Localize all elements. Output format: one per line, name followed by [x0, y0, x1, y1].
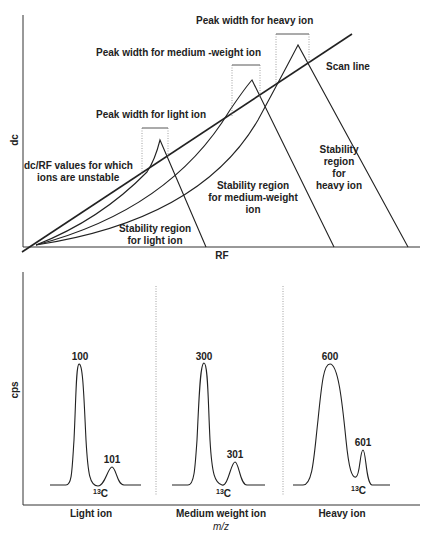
cps-axis-label: cps — [9, 381, 20, 399]
top-diagram: dc RF Scan line Peak width for light ion… — [9, 15, 420, 261]
peak-label-101: 101 — [104, 454, 121, 465]
peak-label-301: 301 — [227, 449, 244, 460]
peak-label-100: 100 — [72, 351, 89, 362]
medium-peak-width-bracket — [232, 65, 260, 116]
scan-line-label: Scan line — [326, 61, 370, 72]
rf-axis-label: RF — [215, 250, 228, 261]
dc-axis-label: dc — [9, 134, 20, 146]
medium-stability-label-line2: for medium-weight — [208, 192, 298, 203]
light-peak-width-bracket — [142, 128, 168, 174]
heavy-stability-label-line1: Stability — [320, 144, 359, 155]
mz-axis-label: m/z — [213, 521, 229, 532]
heavy-peak-width-label: Peak width for heavy ion — [196, 15, 313, 26]
diagram-canvas: dc RF Scan line Peak width for light ion… — [0, 0, 431, 544]
bottom-spectrum: cps 100 101 300 301 600 601 13C 13C 13C … — [9, 272, 420, 532]
peak-label-300: 300 — [196, 351, 213, 362]
medium-stability-label-line1: Stability region — [217, 180, 289, 191]
medium-ion-peaks — [172, 363, 265, 485]
peak-label-601: 601 — [355, 437, 372, 448]
group-label-medium: Medium weight ion — [176, 508, 266, 519]
unstable-label-line2: ions are unstable — [37, 172, 120, 183]
heavy-stability-label-line2: region — [324, 156, 355, 167]
scan-line — [22, 34, 352, 252]
light-ion-peaks — [50, 364, 141, 486]
unstable-label-line1: dc/RF values for which — [24, 160, 133, 171]
light-stability-label-line2: for light ion — [128, 235, 183, 246]
light-peak-width-label: Peak width for light ion — [96, 109, 206, 120]
isotope-label-heavy: 13C — [351, 485, 366, 496]
peak-label-600: 600 — [322, 351, 339, 362]
group-label-heavy: Heavy ion — [318, 508, 365, 519]
heavy-ion-peaks — [293, 364, 390, 485]
medium-peak-width-label: Peak width for medium -weight ion — [96, 47, 261, 58]
isotope-label-medium: 13C — [216, 488, 231, 499]
heavy-stability-label-line4: heavy ion — [316, 180, 362, 191]
group-label-light: Light ion — [70, 508, 112, 519]
light-stability-label-line1: Stability region — [119, 223, 191, 234]
medium-stability-label-line3: ion — [246, 204, 261, 215]
heavy-stability-label-line3: for — [332, 168, 345, 179]
isotope-label-light: 13C — [93, 488, 108, 499]
